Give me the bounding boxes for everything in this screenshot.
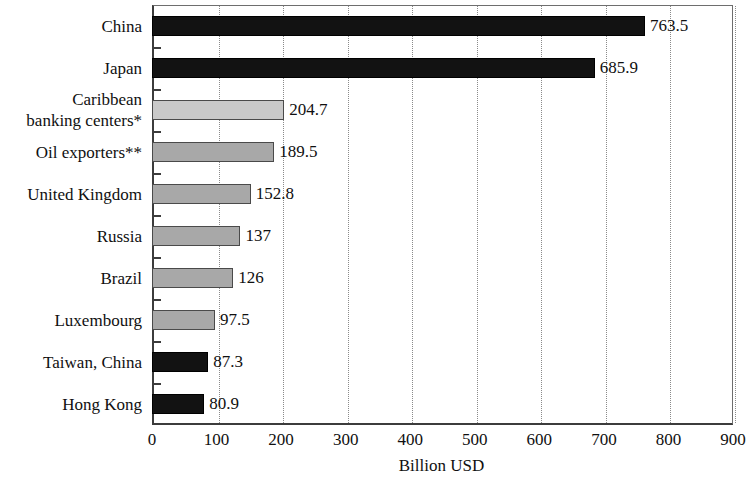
category-label: Japan	[0, 58, 142, 79]
bar[interactable]	[152, 16, 645, 36]
category-label: Russia	[0, 226, 142, 247]
bar-value-label: 87.3	[213, 349, 243, 375]
bar-value-label: 763.5	[650, 13, 688, 39]
x-axis-tick-label: 300	[333, 429, 359, 451]
category-label-line: Japan	[0, 58, 142, 79]
x-axis-tick-label: 900	[720, 429, 746, 451]
category-label: Brazil	[0, 268, 142, 289]
bar[interactable]	[152, 226, 240, 246]
category-label: China	[0, 16, 142, 37]
bar-value-label: 80.9	[209, 391, 239, 417]
category-label: Taiwan, China	[0, 352, 142, 373]
bar[interactable]	[152, 352, 208, 372]
category-label-line: Oil exporters**	[0, 142, 142, 163]
bar-row: 137	[152, 215, 733, 257]
x-axis-tick-label: 200	[268, 429, 294, 451]
bar[interactable]	[152, 142, 274, 162]
bar-chart: ChinaJapanCaribbeanbanking centers*Oil e…	[0, 0, 755, 484]
category-label: Luxembourg	[0, 310, 142, 331]
category-label-line: Russia	[0, 226, 142, 247]
category-label-line: Luxembourg	[0, 310, 142, 331]
category-label: Oil exporters**	[0, 142, 142, 163]
bar-row: 152.8	[152, 173, 733, 215]
bar-value-label: 126	[238, 265, 264, 291]
bar[interactable]	[152, 310, 215, 330]
bar-value-label: 137	[245, 223, 271, 249]
bar-row: 87.3	[152, 341, 733, 383]
x-axis-tick-label: 400	[397, 429, 423, 451]
bar-row: 685.9	[152, 47, 733, 89]
category-label-line: China	[0, 16, 142, 37]
bar-value-label: 204.7	[289, 97, 327, 123]
x-axis-title-text: Billion USD	[399, 455, 485, 477]
bar-row: 80.9	[152, 383, 733, 425]
bar-row: 763.5	[152, 5, 733, 47]
bar-row: 126	[152, 257, 733, 299]
category-axis-labels: ChinaJapanCaribbeanbanking centers*Oil e…	[0, 5, 152, 425]
bar-row: 189.5	[152, 131, 733, 173]
bar[interactable]	[152, 100, 284, 120]
x-axis-title: Billion USD	[0, 455, 755, 477]
x-axis-tick-label: 700	[591, 429, 617, 451]
x-axis-tick-label: 600	[527, 429, 553, 451]
category-label-line: Brazil	[0, 268, 142, 289]
category-label-line: United Kingdom	[0, 184, 142, 205]
category-label-line: Taiwan, China	[0, 352, 142, 373]
gridline	[735, 6, 736, 423]
category-label: Hong Kong	[0, 394, 142, 415]
bar-value-label: 97.5	[220, 307, 250, 333]
bars-layer: 763.5685.9204.7189.5152.813712697.587.38…	[152, 5, 733, 425]
x-axis-tick-label: 0	[148, 429, 157, 451]
x-axis-tick-label: 800	[656, 429, 682, 451]
bar-value-label: 685.9	[600, 55, 638, 81]
x-axis-tick-label: 500	[462, 429, 488, 451]
bar[interactable]	[152, 184, 251, 204]
category-label-line: Hong Kong	[0, 394, 142, 415]
category-label-line: banking centers*	[0, 110, 142, 131]
bar[interactable]	[152, 394, 204, 414]
bar[interactable]	[152, 58, 595, 78]
category-label: United Kingdom	[0, 184, 142, 205]
x-axis-tick-label: 100	[204, 429, 230, 451]
bar-row: 97.5	[152, 299, 733, 341]
bar[interactable]	[152, 268, 233, 288]
bar-value-label: 189.5	[279, 139, 317, 165]
category-label: Caribbeanbanking centers*	[0, 89, 142, 131]
category-label-line: Caribbean	[0, 89, 142, 110]
bar-value-label: 152.8	[256, 181, 294, 207]
bar-row: 204.7	[152, 89, 733, 131]
